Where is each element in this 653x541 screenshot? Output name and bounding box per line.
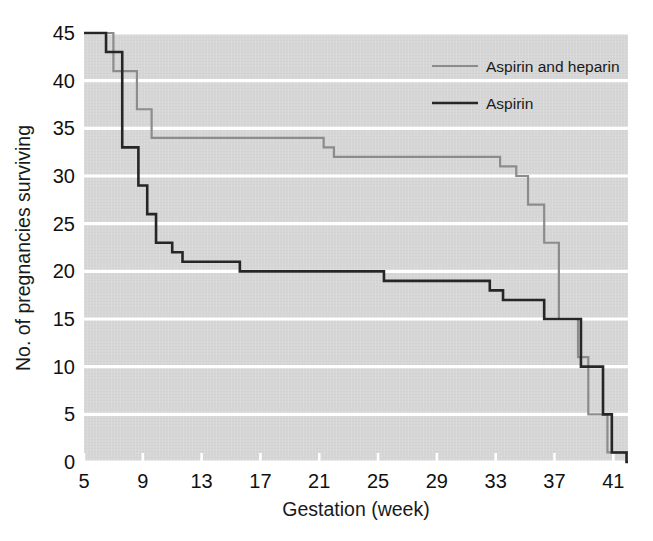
y-tick-label-15: 15 <box>53 308 75 330</box>
chart-canvas: 051015202530354045 591317212529333741 Ge… <box>0 0 653 541</box>
y-axis-title: No. of pregnancies surviving <box>12 125 34 371</box>
y-tick-label-30: 30 <box>53 165 75 187</box>
x-tick-label-21: 21 <box>308 470 330 492</box>
x-tick-label-33: 33 <box>485 470 507 492</box>
y-tick-label-40: 40 <box>53 70 75 92</box>
survival-chart-figure: 051015202530354045 591317212529333741 Ge… <box>0 0 653 541</box>
plot-texture-overlay <box>84 33 628 462</box>
x-tick-label-37: 37 <box>543 470 565 492</box>
x-tick-label-41: 41 <box>602 470 624 492</box>
x-tick-label-25: 25 <box>367 470 389 492</box>
legend-label-aspirin: Aspirin <box>486 95 533 112</box>
y-tick-label-25: 25 <box>53 213 75 235</box>
x-axis-title: Gestation (week) <box>282 498 429 520</box>
x-tick-label-17: 17 <box>249 470 271 492</box>
x-tick-label-9: 9 <box>137 470 148 492</box>
y-tick-label-35: 35 <box>53 117 75 139</box>
y-tick-label-20: 20 <box>53 260 75 282</box>
y-tick-label-0: 0 <box>64 451 75 473</box>
y-tick-label-45: 45 <box>53 22 75 44</box>
x-tick-labels-group: 591317212529333741 <box>78 470 624 492</box>
x-tick-label-29: 29 <box>426 470 448 492</box>
legend-label-aspirin-and-heparin: Aspirin and heparin <box>486 58 620 75</box>
y-tick-label-5: 5 <box>64 403 75 425</box>
x-tick-label-5: 5 <box>78 470 89 492</box>
y-tick-label-10: 10 <box>53 356 75 378</box>
y-tick-labels-group: 051015202530354045 <box>53 22 75 473</box>
x-tick-label-13: 13 <box>190 470 212 492</box>
